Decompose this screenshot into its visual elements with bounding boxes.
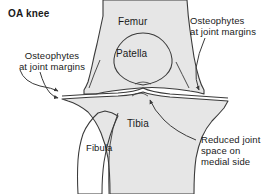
- femur-shape: [84, 0, 204, 94]
- annotation-reduced-joint-space: Reduced joint space on medial side: [201, 134, 276, 167]
- bone-label-tibia: Tibia: [127, 118, 149, 129]
- leader-osteophytes-left-upper: [20, 70, 58, 91]
- leader-osteophytes-left-lower: [40, 72, 58, 98]
- annotation-osteophytes-left: Osteophytes at joint margins: [6, 50, 98, 72]
- bone-label-patella: Patella: [116, 48, 147, 59]
- figure-title: OA knee: [8, 8, 50, 19]
- annotation-osteophytes-right: Osteophytes at joint margins: [190, 15, 276, 37]
- bone-label-femur: Femur: [118, 16, 147, 27]
- bone-label-fibula: Fibula: [86, 142, 112, 153]
- oa-knee-figure: OA knee Osteophytes at joint margins Ost…: [0, 0, 276, 194]
